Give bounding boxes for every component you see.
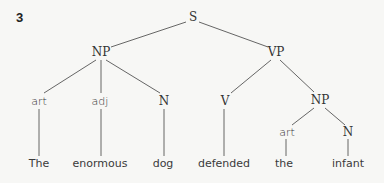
edge-s-np	[111, 22, 186, 47]
edge-vp-np	[280, 60, 314, 92]
node-adj: adj	[92, 96, 109, 107]
node-n-1: N	[159, 95, 170, 107]
edge-vp-v	[231, 60, 271, 93]
word-dog: dog	[153, 158, 174, 169]
edge-np-art	[44, 60, 96, 93]
node-art-1: art	[31, 96, 47, 107]
node-np-subject: NP	[92, 46, 111, 58]
tree-edges	[0, 0, 384, 183]
node-v: V	[221, 95, 230, 107]
syntax-tree-figure: 3 S NP VP art adj N V N	[0, 0, 384, 183]
node-vp: VP	[268, 46, 285, 58]
node-art-2: art	[279, 127, 295, 138]
node-np-object: NP	[311, 94, 330, 106]
edge-s-vp	[199, 22, 268, 47]
node-s: S	[189, 11, 197, 23]
word-the: The	[29, 158, 49, 169]
node-n-2: N	[343, 126, 354, 138]
word-defended: defended	[198, 158, 250, 169]
word-the-2: the	[275, 158, 293, 169]
word-infant: infant	[332, 158, 364, 169]
edge-np-n	[106, 60, 160, 93]
word-enormous: enormous	[73, 158, 128, 169]
edge-np2-art	[292, 108, 314, 125]
edge-np2-n	[325, 108, 345, 125]
